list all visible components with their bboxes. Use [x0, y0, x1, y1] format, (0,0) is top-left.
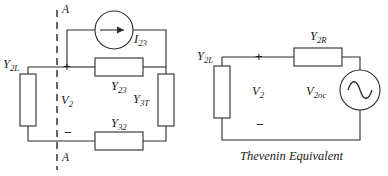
label-y3t-sub: 3T — [140, 98, 149, 108]
resistor-y32-body — [95, 132, 143, 150]
label-y2r-base: Y — [310, 29, 317, 43]
label-i23: I23 — [134, 33, 147, 46]
cut-label-a-top: A — [62, 4, 69, 16]
label-y2r: Y2R — [310, 30, 327, 43]
label-y2l: Y2L — [3, 58, 19, 71]
cut-label-a-bottom: A — [62, 152, 69, 164]
label-v2oc-base: V — [306, 84, 314, 98]
label-v2-right: V2 — [252, 85, 264, 98]
wire-r-top-right — [342, 57, 360, 70]
label-i23-sub: 23 — [138, 38, 147, 48]
label-v2-left-base: V — [61, 93, 69, 107]
label-y32: Y32 — [111, 117, 127, 130]
label-y23-sub: 23 — [118, 85, 127, 95]
label-y32-base: Y — [111, 116, 118, 130]
label-y23-base: Y — [111, 79, 118, 93]
label-y2l-sub: 2L — [10, 63, 19, 73]
wire-r-left — [222, 57, 360, 140]
wire-top-rail — [28, 30, 95, 67]
label-v2-left-sub: 2 — [69, 99, 73, 109]
resistor-y23-body — [95, 58, 143, 76]
port-plus-sign-left: + — [63, 60, 71, 73]
label-v2-right-base: V — [252, 84, 260, 98]
resistor-r-y2l-body — [214, 66, 230, 118]
resistor-y3t-body — [158, 74, 174, 126]
label-v2oc-sub: 2oc — [314, 90, 327, 100]
label-y2l-right-sub: 2L — [204, 55, 213, 65]
port-plus-sign-right: + — [255, 50, 263, 63]
label-y2r-sub: 2R — [317, 35, 327, 45]
thevenin-equivalent-caption: Thevenin Equivalent — [240, 150, 343, 163]
label-y3t: Y3T — [133, 93, 149, 106]
label-v2-left: V2 — [61, 94, 73, 107]
label-y23: Y23 — [111, 80, 127, 93]
label-y3t-base: Y — [133, 92, 140, 106]
left-circuit-group — [20, 10, 174, 170]
right-circuit-group — [214, 48, 380, 140]
label-y2l-right: Y2L — [197, 50, 213, 63]
label-y32-sub: 32 — [118, 122, 127, 132]
circuit-figure: A A Y2L Y23 Y3T Y32 I23 + V2 − Y2L Y2R +… — [0, 0, 388, 176]
resistor-y2l-body — [20, 74, 36, 126]
resistor-y2r-body — [294, 48, 342, 66]
port-minus-sign-right: − — [256, 118, 264, 131]
label-v2oc: V2oc — [306, 85, 326, 98]
label-y2l-right-base: Y — [197, 49, 204, 63]
label-v2-right-sub: 2 — [260, 90, 264, 100]
label-y2l-base: Y — [3, 57, 10, 71]
port-minus-sign-left: − — [64, 126, 72, 139]
